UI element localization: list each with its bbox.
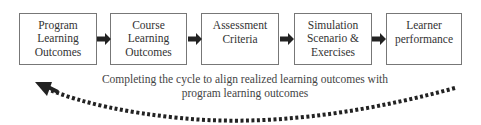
feedback-loop-dotted-arrow-icon — [0, 0, 481, 125]
